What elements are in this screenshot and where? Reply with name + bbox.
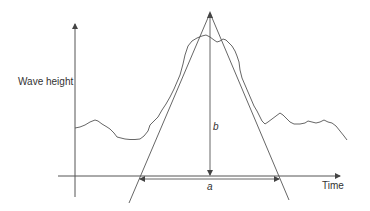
- triangle-right-side: [210, 13, 289, 200]
- triangle-left-side: [129, 13, 210, 203]
- base-a-label: a: [207, 181, 213, 192]
- y-axis-label: Wave height: [18, 76, 73, 87]
- height-b-label: b: [213, 121, 219, 132]
- wave-diagram: [0, 0, 370, 211]
- wave-curve: [75, 35, 347, 140]
- x-axis-label: Time: [322, 180, 344, 191]
